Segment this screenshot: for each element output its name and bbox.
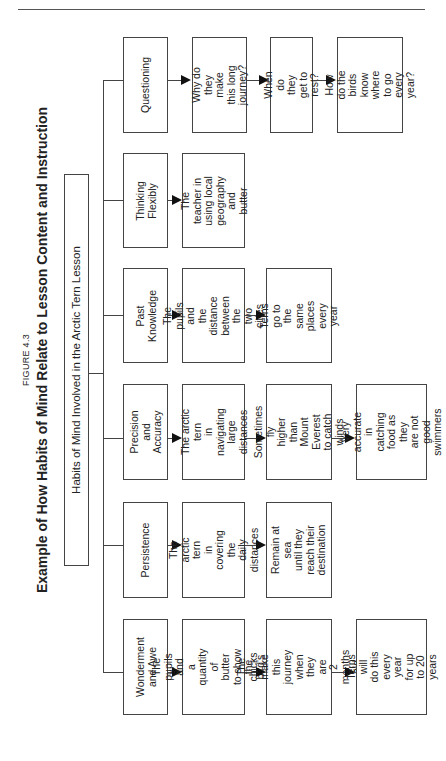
step-box: The arctic tern in covering the daily di… [182, 502, 245, 598]
connector [332, 672, 346, 673]
branch-wonderment-awe [103, 672, 123, 673]
step-text: Very accurate in catching food as they a… [340, 408, 444, 455]
step-text: Remain at sea until they reach their des… [270, 525, 328, 576]
habit-label: Persistence [140, 523, 152, 578]
step-box: The arctic tern in navigating large dist… [182, 384, 245, 480]
habit-box-questioning: Questioning [123, 37, 168, 133]
step-box: Why do they make this long journey? [192, 37, 247, 133]
step-box: Very accurate in catching food as they a… [356, 384, 427, 480]
step-box: Terns will do this every year for up to … [356, 619, 427, 715]
step-box: When do they get to rest? [270, 37, 313, 133]
habit-label: Questioning [140, 57, 152, 113]
habit-box-thinking-flexibly: Thinking Flexibly [123, 153, 168, 248]
step-box: Remain at sea until they reach their des… [266, 502, 332, 598]
step-text: Why do they make this long journey? [191, 65, 249, 105]
branch-precision-accuracy [103, 438, 123, 439]
figure-label: FIGURE 4.3 [21, 334, 31, 386]
habit-label: Thinking Flexibly [134, 181, 157, 221]
figure-label-container: FIGURE 4.3 [20, 300, 32, 420]
habit-box-precision-accuracy: Precision and Accuracy [123, 384, 168, 480]
step-text: Sometimes fly higher than Mount Everest … [253, 406, 345, 459]
step-text: The chicks make this journey when they a… [236, 650, 363, 684]
step-text: Terns go to the same places every year [259, 300, 340, 332]
step-text: Terns will do this every year for up to … [346, 650, 438, 685]
habit-box-persistence: Persistence [123, 502, 168, 598]
step-text: When do they get to rest? [263, 71, 321, 98]
branch-persistence [103, 545, 123, 546]
arrow-icon [256, 540, 266, 550]
branch-questioning [103, 80, 123, 81]
step-text: The teacher in using local geography and… [179, 176, 248, 226]
root-connector [88, 373, 103, 374]
step-box: How do the birds know where to go every … [337, 37, 403, 133]
step-box: Terns go to the same places every year [266, 268, 332, 363]
branch-thinking-flexibly [103, 200, 123, 201]
branch-past-knowledge [103, 315, 123, 316]
habit-label: Precision and Accuracy [128, 410, 163, 453]
step-box: The pupils and the distance between the … [182, 268, 245, 363]
page-header-rule [18, 9, 425, 10]
step-text: The arctic tern in navigating large dist… [179, 408, 248, 456]
connector [168, 80, 182, 81]
root-box: Habits of Mind Involved in the Arctic Te… [64, 174, 89, 566]
step-text: How do the birds know where to go every … [324, 69, 416, 101]
habit-label: Past Knowledge [134, 290, 157, 342]
step-box: The teacher in using local geography and… [182, 153, 245, 248]
figure-title-container: Example of How Habits of Mind Relate to … [34, 100, 50, 600]
step-text: The arctic tern in covering the daily di… [168, 528, 260, 572]
step-box: Sometimes fly higher than Mount Everest … [266, 384, 332, 480]
root-label: Habits of Mind Involved in the Arctic Te… [71, 246, 83, 494]
figure-title: Example of How Habits of Mind Relate to … [34, 107, 50, 593]
step-box: The chicks make this journey when they a… [266, 619, 332, 715]
trunk-line [103, 80, 104, 673]
